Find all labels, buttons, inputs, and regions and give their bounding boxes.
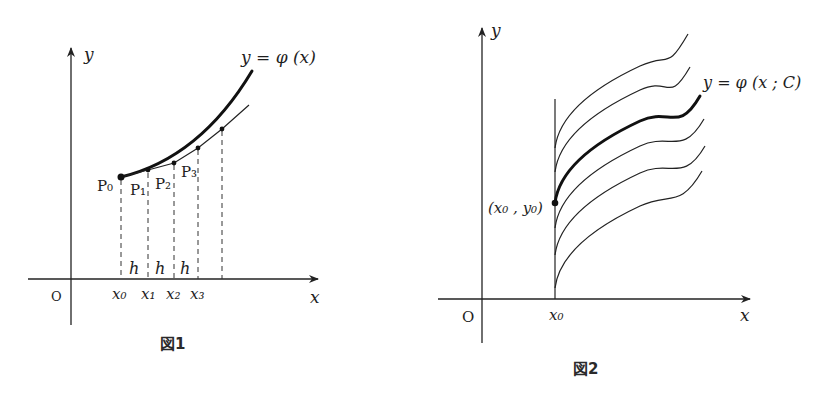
figure-2: y x O x₀ (x₀ , y₀) y = φ (x ; C) 図2: [438, 20, 801, 378]
fig1-point-p4: [220, 127, 225, 132]
fig2-origin-label: O: [462, 308, 474, 326]
fig2-x0-label: x₀: [549, 306, 563, 324]
fig1-step-h1: h: [129, 259, 139, 278]
fig1-solution-curve: [121, 71, 252, 177]
fig1-point-p0: [118, 174, 125, 181]
fig2-y-axis-label: y: [490, 20, 501, 40]
fig1-caption: 図1: [160, 335, 185, 353]
fig1-tick-x3: x₃: [190, 285, 204, 303]
figures-canvas: y x O P₀ P₁ P₂ P₃ h h h x₀ x₁ x₂ x₃ y = …: [0, 0, 822, 401]
fig1-curve-label: y = φ (x): [240, 47, 316, 67]
fig1-label-p3: P₃: [181, 163, 197, 181]
fig1-point-p1: [146, 168, 151, 173]
fig1-label-p2: P₂: [155, 175, 171, 193]
fig1-y-axis-label: y: [83, 44, 94, 64]
fig1-point-p2: [172, 161, 177, 166]
fig2-initial-point-label: (x₀ , y₀): [488, 199, 543, 217]
fig1-label-p1: P₁: [130, 181, 146, 199]
fig2-x-axis-label: x: [740, 305, 750, 325]
fig1-origin-label: O: [51, 289, 62, 304]
fig2-initial-point: [552, 200, 559, 207]
figure-1: y x O P₀ P₁ P₂ P₃ h h h x₀ x₁ x₂ x₃ y = …: [28, 44, 320, 353]
fig2-solution-family: [555, 34, 705, 288]
fig1-step-h2: h: [155, 259, 165, 278]
fig1-point-p3: [196, 146, 201, 151]
fig1-tick-x2: x₂: [166, 285, 180, 303]
fig1-tick-x1: x₁: [141, 285, 155, 303]
fig1-x-axis-label: x: [310, 287, 320, 307]
fig2-solution-curve: [555, 171, 702, 288]
fig1-step-h3: h: [180, 259, 190, 278]
fig1-tick-x0: x₀: [112, 285, 126, 303]
fig2-curve-label: y = φ (x ; C): [702, 73, 801, 92]
fig2-caption: 図2: [573, 360, 598, 378]
fig1-label-p0: P₀: [97, 177, 113, 195]
fig2-solution-curve: [555, 67, 690, 172]
